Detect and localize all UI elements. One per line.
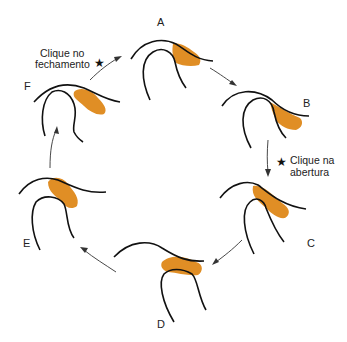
stage-e bbox=[19, 178, 106, 250]
arrowhead-e-to-f bbox=[54, 126, 59, 134]
stage-c bbox=[220, 183, 306, 254]
star-icon: ★ bbox=[94, 57, 105, 69]
stage-a bbox=[131, 41, 213, 100]
stage-d bbox=[114, 243, 206, 322]
stage-label-d: D bbox=[157, 318, 165, 330]
arrow-c-to-d bbox=[216, 240, 242, 262]
arrow-e-to-f bbox=[50, 130, 56, 168]
fossa-a bbox=[131, 41, 213, 61]
arrow-b-to-c bbox=[267, 140, 268, 172]
opening-click-line1: Clique na bbox=[290, 154, 334, 166]
stage-f bbox=[34, 85, 120, 142]
arrowhead-b-to-c bbox=[265, 169, 271, 177]
disc-f bbox=[74, 89, 106, 114]
arrow-a-to-b bbox=[210, 68, 234, 84]
stage-b bbox=[222, 92, 309, 148]
arrowhead-f-to-a bbox=[114, 56, 122, 62]
arrowheads bbox=[54, 56, 271, 265]
arrowhead-c-to-d bbox=[212, 258, 219, 265]
stage-label-b: B bbox=[303, 97, 310, 109]
opening-click-line2: abertura bbox=[290, 166, 329, 178]
condyle-d bbox=[161, 270, 206, 323]
closing-click-line2: fechamento bbox=[35, 58, 90, 70]
fossa-b bbox=[222, 92, 309, 116]
stage-label-c: C bbox=[307, 237, 315, 249]
stage-label-a: A bbox=[157, 16, 164, 28]
star-icon: ★ bbox=[276, 156, 287, 168]
arrow-d-to-e bbox=[84, 250, 116, 272]
fossa-d bbox=[114, 243, 204, 261]
disc-a bbox=[172, 43, 200, 66]
stage-label-f: F bbox=[24, 80, 31, 92]
stage-label-e: E bbox=[23, 237, 30, 249]
